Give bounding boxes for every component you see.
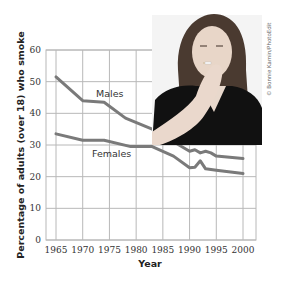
y-tick-label: 40 [30, 108, 42, 118]
x-tick-label: 1985 [151, 245, 174, 255]
x-tick-label: 1975 [98, 245, 121, 255]
x-tick-label: 2000 [232, 245, 255, 255]
y-tick-label: 20 [30, 172, 42, 182]
photo-credit: © Bonnie Kamin/PhotoEdit [266, 22, 272, 96]
smoking-chart: 0102030405060 19651970197519801985199019… [0, 0, 282, 283]
x-axis-title: Year [137, 258, 162, 269]
y-tick-label: 0 [35, 235, 41, 245]
y-tick-label: 30 [30, 140, 42, 150]
x-tick-label: 1970 [71, 245, 94, 255]
x-axis-ticks: 19651970197519801985199019952000 [45, 245, 255, 255]
y-tick-label: 60 [30, 45, 42, 55]
y-axis-ticks: 0102030405060 [30, 45, 42, 245]
females-label: Females [92, 148, 131, 159]
x-tick-label: 1980 [125, 245, 148, 255]
males-label: Males [96, 88, 124, 99]
x-tick-label: 1990 [178, 245, 201, 255]
y-tick-label: 50 [30, 77, 42, 87]
x-tick-label: 1965 [45, 245, 68, 255]
photo-inset [152, 14, 262, 145]
y-tick-label: 10 [30, 203, 42, 213]
y-axis-title: Percentage of adults (over 18) who smoke [15, 31, 26, 258]
x-tick-label: 1995 [205, 245, 228, 255]
